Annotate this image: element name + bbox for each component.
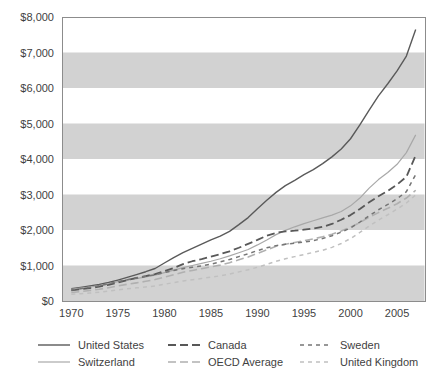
x-tick-label: 1970 bbox=[59, 307, 83, 319]
y-tick-label: $3,000 bbox=[20, 189, 54, 201]
chart-legend: United StatesCanadaSwedenSwitzerlandOECD… bbox=[38, 339, 418, 368]
y-tick-label: $1,000 bbox=[20, 260, 54, 272]
x-tick-label: 1985 bbox=[199, 307, 223, 319]
y-tick-label: $5,000 bbox=[20, 118, 54, 130]
band-6000-7000 bbox=[63, 53, 425, 89]
x-tick-label: 1995 bbox=[292, 307, 316, 319]
legend-label-canada[interactable]: Canada bbox=[208, 339, 247, 351]
legend-label-switzerland[interactable]: Switzerland bbox=[78, 356, 135, 368]
y-tick-label: $7,000 bbox=[20, 47, 54, 59]
y-tick-label: $0 bbox=[42, 295, 54, 307]
legend-label-united-kingdom[interactable]: United Kingdom bbox=[340, 356, 418, 368]
legend-label-sweden[interactable]: Sweden bbox=[340, 339, 380, 351]
y-tick-label: $8,000 bbox=[20, 11, 54, 23]
band-0-1000 bbox=[63, 266, 425, 302]
chart-container: $0$1,000$2,000$3,000$4,000$5,000$6,000$7… bbox=[0, 0, 436, 376]
x-tick-label: 1990 bbox=[245, 307, 269, 319]
y-tick-label: $2,000 bbox=[20, 224, 54, 236]
y-tick-label: $4,000 bbox=[20, 153, 54, 165]
alternating-band-group bbox=[63, 53, 425, 302]
x-tick-label: 1980 bbox=[152, 307, 176, 319]
y-axis-tick-labels: $0$1,000$2,000$3,000$4,000$5,000$6,000$7… bbox=[20, 11, 54, 307]
line-chart-figure: $0$1,000$2,000$3,000$4,000$5,000$6,000$7… bbox=[0, 0, 436, 376]
band-4000-5000 bbox=[63, 124, 425, 160]
x-axis-tick-labels: 19701975198019851990199520002005 bbox=[59, 307, 409, 319]
x-tick-label: 2000 bbox=[338, 307, 362, 319]
legend-label-united-states[interactable]: United States bbox=[78, 339, 145, 351]
x-tick-label: 2005 bbox=[385, 307, 409, 319]
legend-label-oecd-average[interactable]: OECD Average bbox=[208, 356, 283, 368]
y-tick-label: $6,000 bbox=[20, 82, 54, 94]
band-2000-3000 bbox=[63, 195, 425, 231]
x-tick-label: 1975 bbox=[106, 307, 130, 319]
